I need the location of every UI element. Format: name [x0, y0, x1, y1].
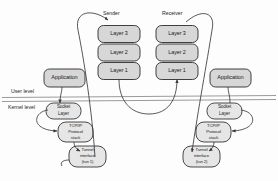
kernel-level-label: Kernel level: [8, 104, 35, 110]
sender-label: Sender: [103, 10, 120, 16]
receiver-layer-boxes: [156, 26, 198, 80]
left-host-boxes: [44, 69, 106, 167]
user-level-label: User level: [11, 88, 34, 94]
diagram-canvas: Sender Receiver User level Kernel level …: [0, 0, 278, 181]
receiver-label: Receiver: [162, 10, 182, 16]
user-kernel-divider: [2, 96, 276, 102]
sender-layer-boxes: [98, 26, 140, 80]
diagram-vector-layer: [0, 0, 278, 181]
right-host-boxes: [183, 69, 251, 167]
